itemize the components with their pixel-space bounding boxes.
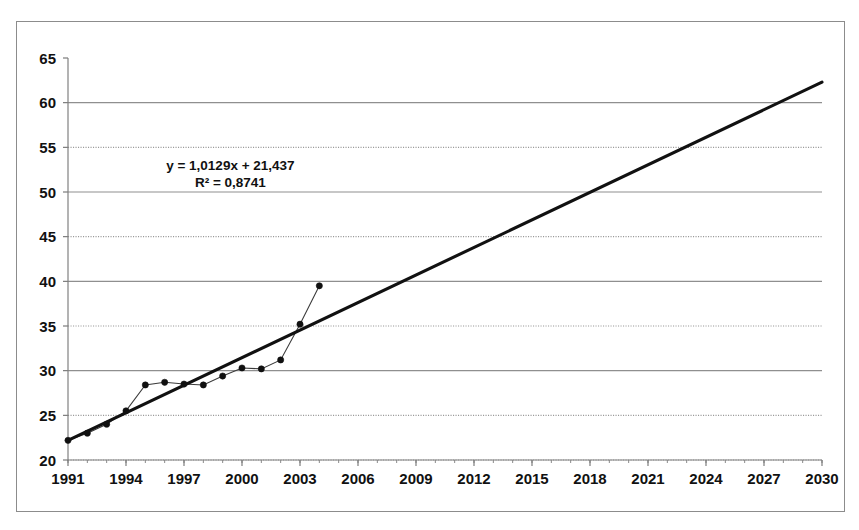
y-tick-label: 20	[39, 452, 56, 469]
x-tick-label: 2006	[341, 470, 374, 487]
y-tick-label: 40	[39, 273, 56, 290]
x-tick-label: 2018	[573, 470, 606, 487]
x-tick-label: 1994	[109, 470, 143, 487]
y-tick-label: 30	[39, 362, 56, 379]
x-tick-label: 2021	[631, 470, 664, 487]
data-point-marker	[239, 365, 245, 371]
regression-equation-annotation: y = 1,0129x + 21,437 R² = 0,8741	[166, 158, 294, 190]
data-point-marker	[220, 373, 226, 379]
data-point-marker	[278, 357, 284, 363]
chart-frame: 20253035404550556065 1991199419972000200…	[16, 21, 845, 512]
y-tick-label: 50	[39, 184, 56, 201]
x-tick-label: 1997	[167, 470, 200, 487]
x-tick-label: 2024	[689, 470, 723, 487]
observed-series-markers	[65, 283, 323, 444]
data-point-marker	[258, 366, 264, 372]
y-tick-label: 45	[39, 228, 56, 245]
data-point-marker	[142, 382, 148, 388]
x-tick-label: 2009	[399, 470, 432, 487]
y-tick-label: 35	[39, 318, 56, 335]
x-tick-label: 2027	[747, 470, 780, 487]
data-point-marker	[297, 321, 303, 327]
x-tick-label: 2012	[457, 470, 490, 487]
x-tick-label: 2000	[225, 470, 258, 487]
x-axis-tick-labels: 1991199419972000200320062009201220152018…	[51, 470, 838, 487]
r-squared-text: R² = 0,8741	[195, 175, 266, 190]
linear-trend-line	[68, 82, 822, 440]
y-tick-label: 65	[39, 50, 56, 67]
x-tick-label: 2003	[283, 470, 316, 487]
data-point-marker	[316, 283, 322, 289]
regression-equation-text: y = 1,0129x + 21,437	[166, 158, 294, 173]
scatter-line-chart: 20253035404550556065 1991199419972000200…	[17, 22, 844, 511]
y-tick-label: 60	[39, 94, 56, 111]
data-point-marker	[200, 382, 206, 388]
y-tick-label: 55	[39, 139, 56, 156]
x-tick-label: 2015	[515, 470, 548, 487]
x-tick-label: 1991	[51, 470, 84, 487]
data-point-marker	[162, 379, 168, 385]
gridlines	[68, 103, 822, 416]
y-tick-label: 25	[39, 407, 56, 424]
x-tick-label: 2030	[805, 470, 838, 487]
chart-screenshot: 20253035404550556065 1991199419972000200…	[0, 0, 859, 530]
y-axis-tick-labels: 20253035404550556065	[39, 50, 56, 469]
